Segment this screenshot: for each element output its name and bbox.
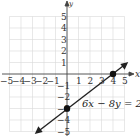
svg-text:4: 4 xyxy=(61,23,67,33)
svg-text:4: 4 xyxy=(111,76,117,86)
point-x-intercept xyxy=(110,71,116,77)
svg-text:−5: −5 xyxy=(57,127,71,137)
svg-text:−1: −1 xyxy=(57,81,70,91)
y-axis-label: y xyxy=(68,0,74,8)
svg-text:2: 2 xyxy=(61,46,67,56)
svg-text:2: 2 xyxy=(88,76,94,86)
line-arrow-start-icon xyxy=(36,128,42,134)
x-axis-arrow-icon xyxy=(129,72,134,76)
svg-text:1: 1 xyxy=(76,76,82,86)
point-y-intercept xyxy=(64,105,70,111)
svg-text:3: 3 xyxy=(61,35,67,45)
svg-text:5: 5 xyxy=(122,76,128,86)
x-axis-label: x xyxy=(135,69,140,79)
coordinate-plane: x y −5 −4 −3 −2 −1 1 2 3 4 5 5 4 3 2 1 −… xyxy=(0,0,140,138)
line-arrow-end-icon xyxy=(122,63,128,69)
equation-label: 6x − 8y = 24 xyxy=(82,98,140,109)
svg-text:−2: −2 xyxy=(57,92,70,102)
svg-text:−4: −4 xyxy=(57,115,71,125)
svg-text:5: 5 xyxy=(61,12,67,22)
svg-text:1: 1 xyxy=(61,58,67,68)
